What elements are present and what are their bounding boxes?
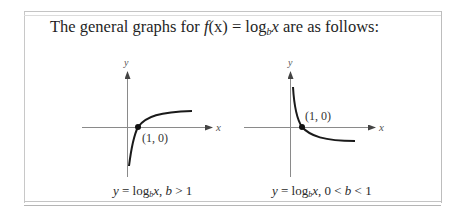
caption-log: = log (278, 183, 308, 198)
caption-b-greater-than-1: y = logbx, b > 1 (113, 183, 192, 199)
caption-condition: < 1 (351, 183, 371, 198)
caption-b-between-0-and-1: y = logbx, 0 < b < 1 (272, 183, 372, 199)
caption-condition: > 1 (172, 183, 192, 198)
caption-sep: , 0 < (318, 183, 345, 198)
graph-log-b-between-0-and-1: y x (1, 0) (0, 0, 459, 220)
caption-log: = log (119, 183, 149, 198)
point-1-0 (299, 124, 305, 130)
point-label: (1, 0) (305, 109, 331, 123)
y-axis-label: y (287, 57, 293, 68)
x-axis-label: x (378, 121, 384, 133)
